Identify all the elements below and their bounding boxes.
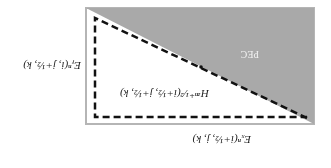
ey-label: Eᵧⁿ(i, j+½, k) [23,60,81,72]
pec-label: PEC [241,49,259,60]
diagram-graphics [0,0,331,168]
diagram-stage: PEC Hᶻⁿ⁺¹⁄²(i+½, j+½, k) Eᵧⁿ(i, j+½, k) … [0,0,331,168]
hz-label: Hᶻⁿ⁺¹⁄²(i+½, j+½, k) [120,87,209,100]
ex-label: Eₓⁿ(i+½, j, k) [193,134,251,146]
hz-point [199,65,203,69]
